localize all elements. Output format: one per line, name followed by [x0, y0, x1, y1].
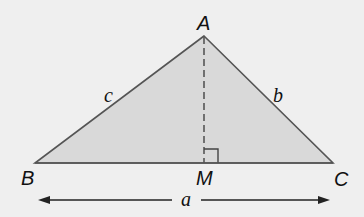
side-label-a: a: [181, 188, 191, 210]
triangle-diagram: A B M C c b a: [0, 0, 364, 217]
side-label-b: b: [273, 84, 283, 106]
vertex-label-m: M: [196, 167, 213, 189]
vertex-label-b: B: [21, 167, 34, 189]
vertex-label-a: A: [196, 12, 210, 34]
vertex-label-c: C: [334, 168, 349, 190]
side-label-c: c: [104, 84, 113, 106]
